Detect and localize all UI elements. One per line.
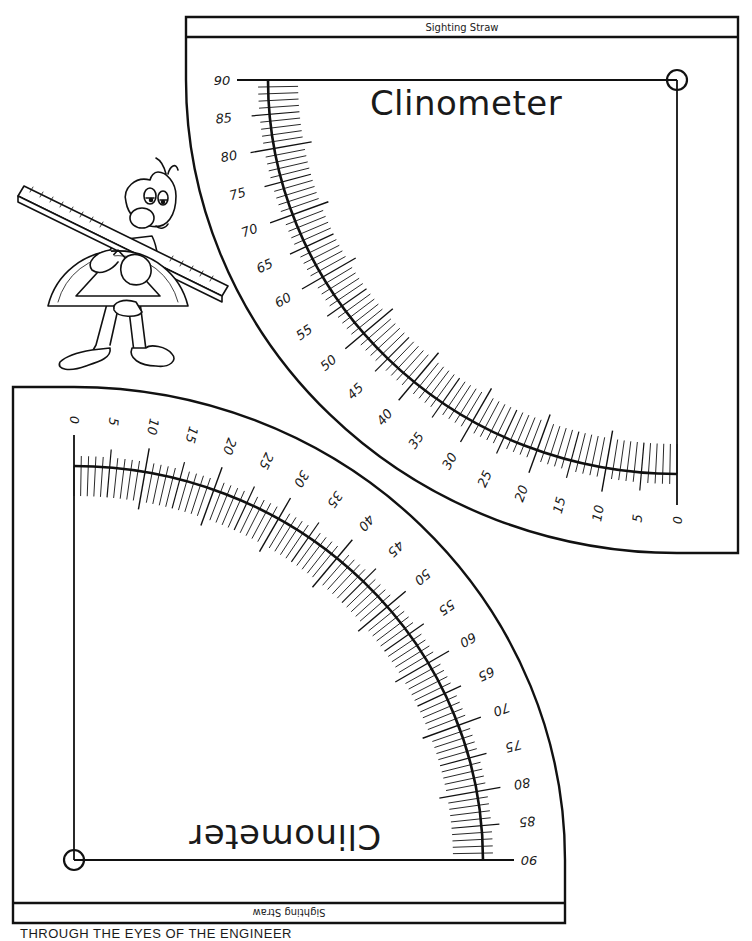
character-right-hand [121, 254, 151, 284]
footer-text: THROUGH THE EYES OF THE ENGINEER [20, 926, 292, 941]
scale-label-10: 10 [144, 417, 162, 436]
scale-label-5: 5 [106, 417, 122, 427]
character-nose [130, 208, 154, 228]
right-foot [131, 346, 174, 366]
clinometer-title: Clinometer [370, 83, 562, 123]
scale-label-80: 80 [513, 775, 532, 793]
scale-label-90: 90 [214, 73, 231, 88]
scale-label-80: 80 [219, 148, 238, 166]
scale-label-85: 85 [518, 813, 536, 829]
scale-label-5: 5 [630, 514, 646, 524]
cartoon-character-illustration [18, 158, 228, 369]
left-foot [59, 348, 110, 369]
scale-label-10: 10 [589, 504, 607, 523]
scale-label-0: 0 [670, 516, 685, 524]
scale-label-85: 85 [215, 110, 233, 126]
scale-label-0: 0 [67, 416, 82, 424]
sighting-straw-label: Sighting Straw [425, 22, 498, 33]
clinometer-title: Clinometer [189, 817, 381, 857]
scale-label-90: 90 [521, 853, 538, 868]
sighting-straw-label: Sighting Straw [252, 907, 325, 918]
